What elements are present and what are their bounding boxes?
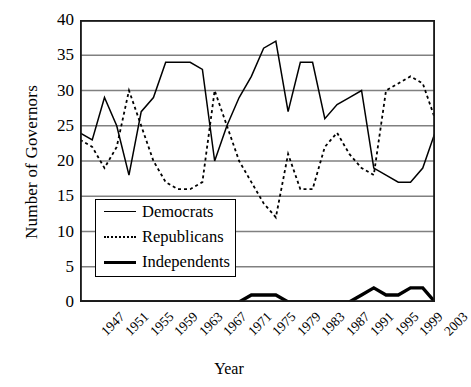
- x-axis-tick-labels: 1947195119551959196319671971197519791983…: [0, 303, 458, 363]
- x-tick-label: 1947: [98, 309, 128, 339]
- x-tick-label: 1963: [196, 309, 226, 339]
- x-tick-label: 1951: [122, 309, 152, 339]
- y-tick-label: 15: [40, 187, 74, 204]
- y-tick-label: 5: [40, 258, 74, 275]
- y-axis-tick-labels: 0510152025303540: [38, 0, 74, 322]
- x-tick-label: 1955: [147, 309, 177, 339]
- x-tick-label: 1979: [294, 309, 324, 339]
- x-tick-label: 2003: [441, 309, 471, 339]
- x-tick-label: 1999: [416, 309, 446, 339]
- x-tick-label: 1975: [269, 309, 299, 339]
- x-tick-label: 1967: [220, 309, 250, 339]
- legend-line-independents-icon: [104, 261, 136, 267]
- legend-item-republicans: Republicans: [96, 225, 235, 250]
- x-tick-label: 1991: [367, 309, 397, 339]
- x-tick-label: 1987: [343, 309, 373, 339]
- legend-label-republicans: Republicans: [142, 227, 224, 247]
- x-tick-label: 1959: [171, 309, 201, 339]
- legend-item-independents: Independents: [96, 250, 235, 275]
- legend-line-democrats-icon: [104, 211, 136, 215]
- y-tick-label: 40: [40, 11, 74, 28]
- y-tick-label: 35: [40, 46, 74, 63]
- legend: Democrats Republicans Independents: [95, 199, 236, 277]
- series-line-independents: [80, 288, 435, 302]
- legend-label-independents: Independents: [142, 252, 230, 272]
- y-tick-label: 20: [40, 152, 74, 169]
- x-tick-label: 1983: [318, 309, 348, 339]
- y-tick-label: 10: [40, 223, 74, 240]
- x-tick-label: 1995: [392, 309, 422, 339]
- legend-item-democrats: Democrats: [96, 200, 235, 225]
- legend-line-republicans-icon: [104, 236, 136, 241]
- legend-label-democrats: Democrats: [142, 202, 213, 222]
- x-axis-title: Year: [0, 360, 458, 378]
- y-tick-label: 25: [40, 117, 74, 134]
- y-tick-label: 30: [40, 82, 74, 99]
- x-tick-label: 1971: [245, 309, 275, 339]
